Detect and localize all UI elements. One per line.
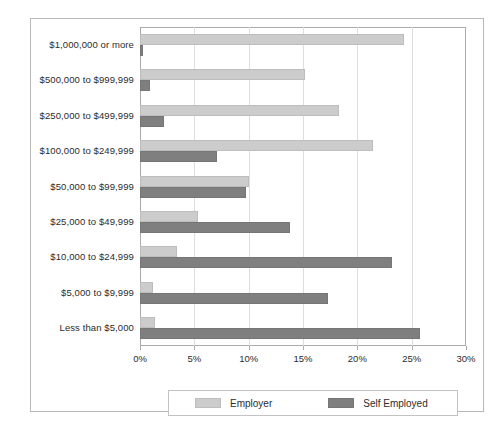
employer-swatch [195,398,221,408]
x-axis-tick-label: 20% [348,353,367,364]
category-label: $250,000 to $499,999 [0,110,134,121]
x-axis-tickmark [466,346,467,350]
bar-employer-3 [140,140,373,151]
category-label: $10,000 to $24,999 [0,251,134,262]
x-axis-tickmark [194,346,195,350]
bar-employer-6 [140,246,177,257]
bar-self-employed-3 [140,151,217,162]
legend-label: Employer [230,398,272,409]
x-axis-tick-label: 0% [133,353,147,364]
bar-self-employed-4 [140,187,246,198]
category-label: $100,000 to $249,999 [0,145,134,156]
category-label: $25,000 to $49,999 [0,216,134,227]
bar-chart: $1,000,000 or more$500,000 to $999,999$2… [31,19,483,411]
gridline [357,27,358,346]
category-label: $50,000 to $99,999 [0,181,134,192]
chart-legend: EmployerSelf Employed [168,390,458,416]
x-axis-tickmark [249,346,250,350]
legend-entry-self-employed[interactable]: Self Employed [328,398,427,409]
bar-self-employed-5 [140,222,290,233]
bar-employer-0 [140,34,404,45]
x-axis-tick-label: 15% [293,353,312,364]
bar-employer-5 [140,211,198,222]
x-axis-tickmark [140,346,141,350]
legend-label: Self Employed [363,398,427,409]
bar-self-employed-6 [140,257,392,268]
bar-employer-4 [140,176,249,187]
gridline [412,27,413,346]
bar-self-employed-2 [140,116,164,127]
bar-employer-7 [140,282,153,293]
self-employed-swatch [328,398,354,408]
bar-self-employed-7 [140,293,328,304]
x-axis-tickmark [303,346,304,350]
x-axis-tickmark [357,346,358,350]
legend-entry-employer[interactable]: Employer [195,398,272,409]
category-label: Less than $5,000 [0,322,134,333]
bar-self-employed-0 [140,45,143,56]
x-axis-tick-label: 30% [456,353,475,364]
bar-self-employed-8 [140,328,420,339]
x-axis-tick-label: 25% [402,353,421,364]
bar-self-employed-1 [140,80,150,91]
bar-employer-1 [140,69,305,80]
x-axis-tick-label: 10% [239,353,258,364]
x-axis-tick-label: 5% [187,353,201,364]
bar-employer-8 [140,317,155,328]
x-axis-tickmark [412,346,413,350]
bar-employer-2 [140,105,339,116]
category-label: $1,000,000 or more [0,39,134,50]
chart-frame: $1,000,000 or more$500,000 to $999,999$2… [30,18,484,412]
category-label: $5,000 to $9,999 [0,287,134,298]
category-label: $500,000 to $999,999 [0,74,134,85]
